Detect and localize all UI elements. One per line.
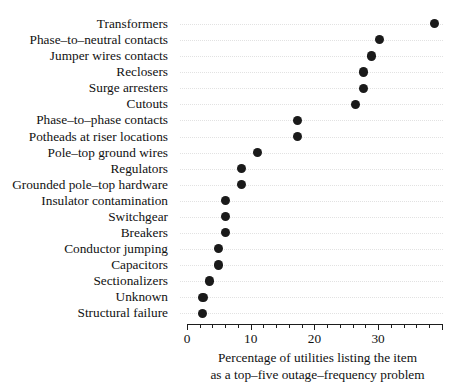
x-tick-minor	[225, 324, 226, 328]
data-point	[359, 84, 368, 93]
chart-row: Sectionalizers	[0, 273, 455, 289]
chart-row: Transformers	[0, 16, 455, 32]
data-point	[359, 67, 368, 76]
data-point	[221, 228, 230, 237]
x-tick-minor	[276, 324, 277, 328]
x-tick-label: 20	[308, 331, 321, 346]
x-axis-cap	[187, 324, 188, 330]
data-point	[214, 244, 223, 253]
row-gridline	[180, 185, 443, 187]
x-tick-major	[251, 324, 252, 330]
row-gridline	[180, 217, 443, 219]
dot-plot-figure: TransformersPhase–to–neutral contactsJum…	[0, 0, 455, 388]
data-point	[430, 19, 439, 28]
row-gridline	[180, 201, 443, 203]
x-tick-minor	[353, 324, 354, 328]
x-tick-minor	[200, 324, 201, 328]
row-gridline	[180, 153, 443, 155]
row-gridline	[180, 120, 443, 122]
data-point	[237, 164, 246, 173]
x-axis: 0102030 Percentage of utilities listing …	[0, 318, 455, 388]
category-label: Pole–top ground wires	[0, 145, 168, 161]
x-tick-label: 30	[371, 331, 384, 346]
x-tick-minor	[327, 324, 328, 328]
x-axis-title-line-1: Percentage of utilities listing the item	[180, 349, 455, 366]
x-tick-minor	[263, 324, 264, 328]
plot-area: TransformersPhase–to–neutral contactsJum…	[0, 0, 455, 318]
chart-row: Insulator contamination	[0, 193, 455, 209]
x-tick-major	[314, 324, 315, 330]
chart-row: Reclosers	[0, 64, 455, 80]
data-point	[198, 309, 207, 318]
row-gridline	[180, 72, 443, 74]
row-gridline	[180, 137, 443, 139]
row-gridline	[180, 88, 443, 90]
x-tick-minor	[340, 324, 341, 328]
data-point	[205, 276, 214, 285]
category-label: Cutouts	[0, 96, 168, 112]
chart-row: Conductor jumping	[0, 241, 455, 257]
chart-row: Capacitors	[0, 257, 455, 273]
category-label: Surge arresters	[0, 80, 168, 96]
chart-row: Phase–to–neutral contacts	[0, 32, 455, 48]
x-tick-major	[378, 324, 379, 330]
row-gridline	[180, 169, 443, 171]
x-axis-title: Percentage of utilities listing the item…	[180, 349, 455, 383]
category-label: Transformers	[0, 16, 168, 32]
category-label: Conductor jumping	[0, 241, 168, 257]
row-gridline	[180, 40, 443, 42]
data-point	[293, 132, 302, 141]
row-gridline	[180, 297, 443, 299]
x-tick-label: 0	[184, 331, 191, 346]
chart-row: Switchgear	[0, 209, 455, 225]
data-point	[221, 212, 230, 221]
data-point	[293, 116, 302, 125]
data-point	[237, 180, 246, 189]
chart-row: Regulators	[0, 161, 455, 177]
chart-row: Unknown	[0, 289, 455, 305]
category-label: Jumper wires contacts	[0, 48, 168, 64]
x-tick-minor	[416, 324, 417, 328]
x-tick-minor	[365, 324, 366, 328]
data-point	[214, 260, 223, 269]
category-label: Phase–to–phase contacts	[0, 112, 168, 128]
data-point	[351, 100, 360, 109]
x-tick-label: 10	[244, 331, 257, 346]
chart-row: Phase–to–phase contacts	[0, 112, 455, 128]
data-point	[375, 35, 384, 44]
row-gridline	[180, 56, 443, 58]
chart-row: Pole–top ground wires	[0, 145, 455, 161]
category-label: Grounded pole–top hardware	[0, 177, 168, 193]
category-label: Capacitors	[0, 257, 168, 273]
category-label: Insulator contamination	[0, 193, 168, 209]
x-tick-minor	[404, 324, 405, 328]
chart-row: Surge arresters	[0, 80, 455, 96]
category-label: Switchgear	[0, 209, 168, 225]
data-point	[198, 293, 207, 302]
chart-row: Cutouts	[0, 96, 455, 112]
chart-row: Potheads at riser locations	[0, 129, 455, 145]
chart-row: Jumper wires contacts	[0, 48, 455, 64]
data-point	[221, 196, 230, 205]
x-tick-minor	[212, 324, 213, 328]
x-axis-title-line-2: as a top–five outage–frequency problem	[180, 366, 455, 383]
category-label: Reclosers	[0, 64, 168, 80]
category-label: Potheads at riser locations	[0, 129, 168, 145]
x-tick-minor	[391, 324, 392, 328]
category-label: Breakers	[0, 225, 168, 241]
category-label: Regulators	[0, 161, 168, 177]
category-label: Unknown	[0, 289, 168, 305]
row-gridline	[180, 24, 443, 26]
x-axis-cap	[442, 324, 443, 330]
row-gridline	[180, 104, 443, 106]
chart-row: Grounded pole–top hardware	[0, 177, 455, 193]
data-point	[253, 148, 262, 157]
x-tick-minor	[429, 324, 430, 328]
x-tick-minor	[238, 324, 239, 328]
data-point	[367, 51, 376, 60]
row-gridline	[180, 281, 443, 283]
category-label: Phase–to–neutral contacts	[0, 32, 168, 48]
chart-row: Breakers	[0, 225, 455, 241]
row-gridline	[180, 233, 443, 235]
x-tick-minor	[302, 324, 303, 328]
